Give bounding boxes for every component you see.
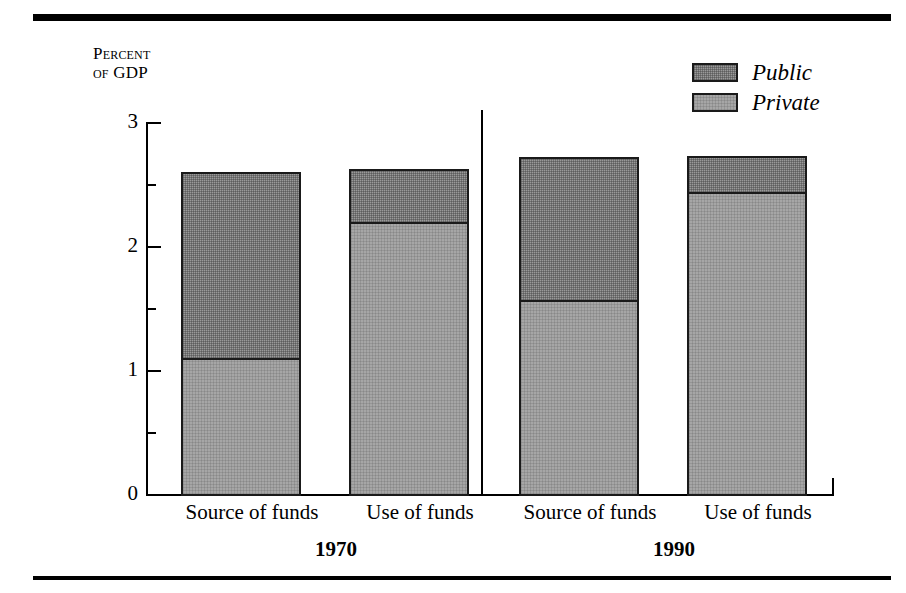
y-tick-2-5 xyxy=(146,184,156,186)
y-axis-title-gdp: GDP xyxy=(113,63,148,82)
bar-segment-private xyxy=(349,222,469,496)
legend-item-public[interactable]: Public xyxy=(692,60,820,85)
y-axis-title-line2: of GDP xyxy=(93,63,213,82)
group-label-1990: 1990 xyxy=(574,539,774,560)
bar-segment-public xyxy=(349,169,469,223)
bar-chart: Percent of GDP 3 2 1 0 Public xyxy=(0,0,906,593)
y-tick-label-3: 3 xyxy=(116,111,138,132)
x-axis-right-cap xyxy=(832,478,834,496)
bar-1990-use[interactable] xyxy=(687,156,807,496)
y-tick-2 xyxy=(146,246,161,248)
y-axis-title-line1: Percent xyxy=(93,44,213,63)
legend: Public Private xyxy=(692,60,820,120)
y-axis-title-of: of xyxy=(93,63,113,82)
bar-segment-private xyxy=(181,358,301,496)
group-label-1970: 1970 xyxy=(236,539,436,560)
y-tick-0-5 xyxy=(146,432,156,434)
bar-1990-source[interactable] xyxy=(519,157,639,496)
bar-1970-use[interactable] xyxy=(349,169,469,496)
legend-swatch-public xyxy=(692,63,738,82)
bar-segment-private xyxy=(687,192,807,496)
bar-segment-public xyxy=(519,157,639,302)
y-tick-label-0: 0 xyxy=(116,483,138,504)
category-label-1990-use: Use of funds xyxy=(658,502,858,523)
y-axis-title: Percent of GDP xyxy=(93,44,213,82)
legend-item-private[interactable]: Private xyxy=(692,90,820,115)
y-tick-label-1: 1 xyxy=(116,359,138,380)
bar-segment-public xyxy=(687,156,807,194)
bar-1970-source[interactable] xyxy=(181,172,301,496)
y-tick-1-5 xyxy=(146,308,156,310)
y-tick-label-2: 2 xyxy=(116,235,138,256)
y-tick-1 xyxy=(146,370,161,372)
legend-label-private: Private xyxy=(752,91,820,114)
y-tick-3 xyxy=(146,122,161,124)
legend-swatch-private xyxy=(692,93,738,112)
legend-label-public: Public xyxy=(752,61,812,84)
group-divider xyxy=(481,110,483,496)
bar-segment-private xyxy=(519,300,639,496)
bar-segment-public xyxy=(181,172,301,360)
